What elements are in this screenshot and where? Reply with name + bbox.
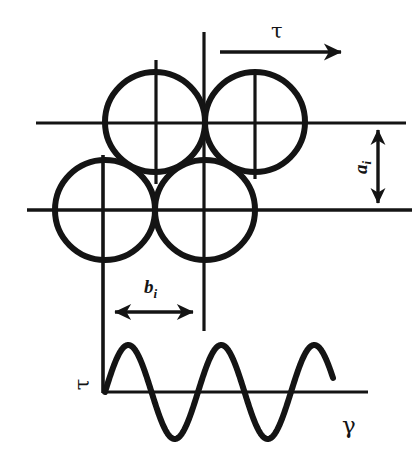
figure-root: τ ai bi τ γ [0, 0, 420, 463]
b-spacing-label: bi [144, 277, 157, 300]
strain-axis-label: γ [342, 414, 356, 437]
a-spacing-label: ai [351, 154, 374, 180]
b-spacing-subscript: i [154, 286, 158, 301]
shear-stress-top-label: τ [271, 21, 283, 42]
shear-stress-axis-label: τ [72, 375, 93, 395]
a-spacing-subscript: i [359, 161, 374, 165]
diagram-canvas [0, 0, 420, 463]
column-lines-group [103, 32, 255, 393]
b-spacing-symbol: b [144, 276, 154, 297]
sphere-pack-group [55, 72, 305, 260]
a-spacing-symbol: a [350, 164, 371, 174]
